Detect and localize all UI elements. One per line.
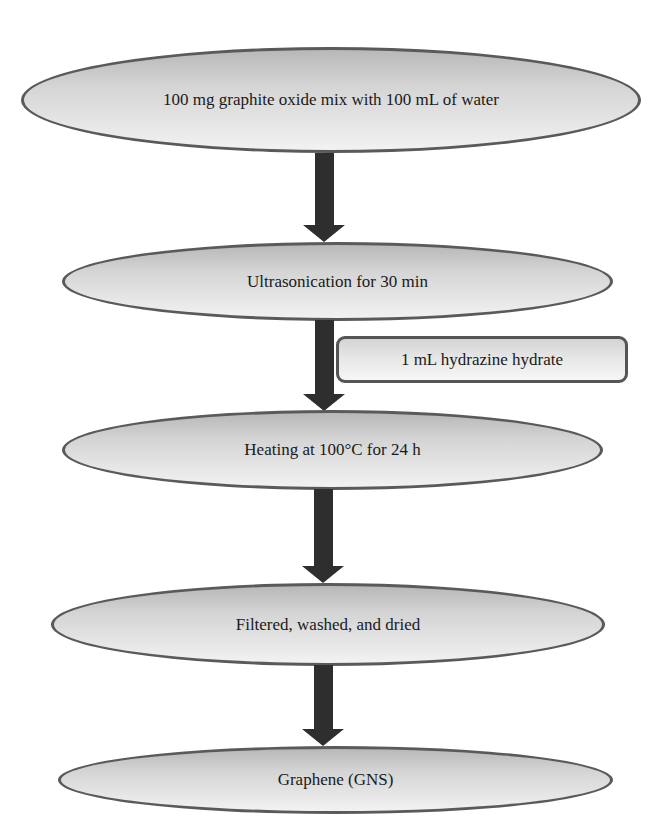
step-heating: Heating at 100°C for 24 h (62, 410, 603, 490)
step-label: Heating at 100°C for 24 h (244, 440, 420, 460)
reagent-hydrazine-box: 1 mL hydrazine hydrate (336, 336, 628, 383)
step-filtered-washed-dried: Filtered, washed, and dried (51, 583, 605, 666)
step-graphene-product: Graphene (GNS) (58, 746, 613, 814)
step-label: Graphene (GNS) (278, 770, 394, 790)
step-label: Filtered, washed, and dried (236, 615, 421, 635)
step-graphite-oxide-mix: 100 mg graphite oxide mix with 100 mL of… (21, 47, 641, 153)
reagent-label: 1 mL hydrazine hydrate (401, 350, 563, 370)
step-label: 100 mg graphite oxide mix with 100 mL of… (163, 90, 499, 110)
step-label: Ultrasonication for 30 min (247, 272, 428, 292)
step-ultrasonication: Ultrasonication for 30 min (62, 242, 613, 321)
